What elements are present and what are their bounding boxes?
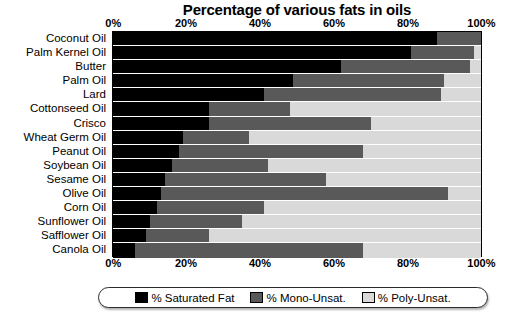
bar-segment <box>371 117 481 130</box>
bar-series-group <box>113 32 481 256</box>
bar-segment <box>113 131 183 144</box>
bar-row <box>113 159 481 173</box>
y-tick-label: Sunflower Oil <box>0 214 110 228</box>
bar-row <box>113 131 481 145</box>
bar-segment <box>113 102 209 115</box>
bar-row <box>113 187 481 201</box>
bar-segment <box>293 74 444 87</box>
bar-segment <box>161 187 448 200</box>
bar-row <box>113 32 481 46</box>
bar-segment <box>113 60 341 73</box>
legend-label: % Poly-Unsat. <box>378 292 451 304</box>
bar-row <box>113 74 481 88</box>
y-axis-category-labels: Coconut OilPalm Kernel OilButterPalm Oil… <box>0 31 110 257</box>
bar-segment <box>113 159 172 172</box>
bar-segment <box>290 102 481 115</box>
bar-row <box>113 117 481 131</box>
x-tick-label: 0% <box>105 257 121 269</box>
bar-segment <box>113 215 150 228</box>
y-tick-label: Crisco <box>0 116 110 130</box>
bar-segment <box>448 187 481 200</box>
x-tick-label: 60% <box>323 17 345 29</box>
chart-legend: % Saturated Fat% Mono-Unsat.% Poly-Unsat… <box>98 287 488 308</box>
legend-label: % Saturated Fat <box>151 292 234 304</box>
bar-segment <box>113 187 161 200</box>
bar-segment <box>113 173 165 186</box>
bar-row <box>113 201 481 215</box>
legend-swatch <box>362 292 375 303</box>
bar-segment <box>268 159 481 172</box>
x-tick-label: 20% <box>175 17 197 29</box>
bar-segment <box>146 229 209 242</box>
y-tick-label: Butter <box>0 59 110 73</box>
bar-segment <box>172 159 268 172</box>
y-tick-label: Coconut Oil <box>0 31 110 45</box>
x-tick-label: 100% <box>467 257 495 269</box>
bar-segment <box>209 229 481 242</box>
legend-item[interactable]: % Saturated Fat <box>135 292 234 304</box>
y-tick-label: Sesame Oil <box>0 172 110 186</box>
x-tick-label: 20% <box>175 257 197 269</box>
x-tick-label: 80% <box>397 17 419 29</box>
x-axis-bottom: 0%20%40%60%80%100% <box>112 257 482 270</box>
y-tick-label: Safflower Oil <box>0 228 110 242</box>
bar-segment <box>264 88 441 101</box>
bar-segment <box>474 46 481 59</box>
bar-segment <box>341 60 470 73</box>
legend-item[interactable]: % Mono-Unsat. <box>250 292 345 304</box>
bar-segment <box>113 117 209 130</box>
bar-segment <box>363 145 481 158</box>
bar-segment <box>113 201 157 214</box>
bar-row <box>113 46 481 60</box>
chart-container: Percentage of various fats in oils 0%20%… <box>0 0 506 314</box>
bar-row <box>113 102 481 116</box>
bar-row <box>113 243 481 257</box>
bar-segment <box>411 46 474 59</box>
bar-segment <box>113 229 146 242</box>
bar-segment <box>135 243 363 257</box>
y-tick-label: Wheat Germ Oil <box>0 130 110 144</box>
bar-segment <box>242 215 481 228</box>
bar-segment <box>363 243 481 257</box>
x-tick-label: 40% <box>249 257 271 269</box>
y-tick-label: Peanut Oil <box>0 144 110 158</box>
y-tick-label: Soybean Oil <box>0 158 110 172</box>
bar-segment <box>183 131 249 144</box>
legend-swatch <box>250 292 263 303</box>
bar-segment <box>150 215 242 228</box>
x-axis-top: 0%20%40%60%80%100% <box>112 17 482 30</box>
plot-area <box>112 31 482 257</box>
bar-segment <box>209 102 290 115</box>
bar-segment <box>113 243 135 257</box>
legend-label: % Mono-Unsat. <box>266 292 345 304</box>
x-tick-label: 80% <box>397 257 419 269</box>
bar-segment <box>113 32 437 45</box>
bar-segment <box>209 117 371 130</box>
bar-segment <box>179 145 363 158</box>
bar-segment <box>326 173 481 186</box>
bar-row <box>113 88 481 102</box>
bar-segment <box>249 131 481 144</box>
bar-row <box>113 145 481 159</box>
y-tick-label: Palm Oil <box>0 73 110 87</box>
chart-title: Percentage of various fats in oils <box>112 1 482 18</box>
bar-segment <box>264 201 481 214</box>
bar-segment <box>437 32 481 45</box>
bar-segment <box>113 88 264 101</box>
bar-row <box>113 215 481 229</box>
y-tick-label: Corn Oil <box>0 200 110 214</box>
bar-segment <box>165 173 327 186</box>
bar-segment <box>444 74 481 87</box>
y-tick-label: Olive Oil <box>0 186 110 200</box>
y-tick-label: Palm Kernel Oil <box>0 45 110 59</box>
legend-item[interactable]: % Poly-Unsat. <box>362 292 451 304</box>
bar-segment <box>157 201 264 214</box>
bar-row <box>113 173 481 187</box>
x-tick-label: 60% <box>323 257 345 269</box>
legend-swatch <box>135 292 148 303</box>
bar-segment <box>113 46 411 59</box>
y-tick-label: Lard <box>0 87 110 101</box>
x-tick-label: 100% <box>467 17 495 29</box>
bar-segment <box>470 60 481 73</box>
x-tick-label: 0% <box>105 17 121 29</box>
